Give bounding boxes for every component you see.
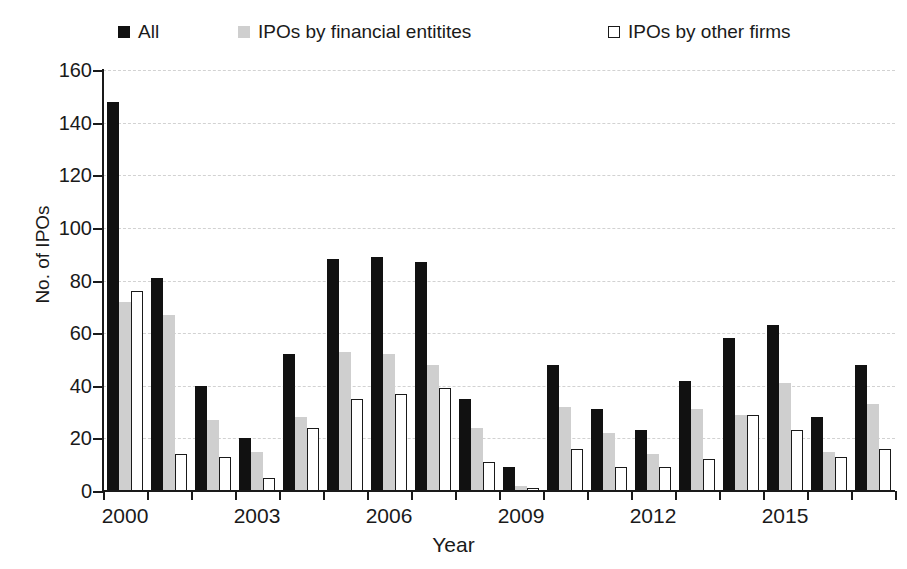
plot-area xyxy=(103,70,895,491)
bar-financial-entities xyxy=(867,404,879,491)
bar-all xyxy=(327,259,339,491)
y-tick-mark xyxy=(93,123,103,125)
bar-group xyxy=(235,70,279,491)
bar-all xyxy=(415,262,427,491)
bar-all xyxy=(547,365,559,491)
x-tick-mark xyxy=(367,491,369,500)
x-tick-mark xyxy=(631,491,633,500)
x-tick-mark xyxy=(323,491,325,500)
x-tick-label: 2003 xyxy=(217,505,297,526)
x-tick-mark xyxy=(411,491,413,500)
y-axis-title: No. of IPOs xyxy=(33,175,52,335)
y-tick-mark xyxy=(93,175,103,177)
bar-group xyxy=(675,70,719,491)
bar-group xyxy=(191,70,235,491)
legend-label-other-firms: IPOs by other firms xyxy=(628,22,791,41)
bar-all xyxy=(151,278,163,491)
bar-group xyxy=(455,70,499,491)
x-tick-mark xyxy=(455,491,457,500)
bar-financial-entities xyxy=(471,428,483,491)
bar-all xyxy=(503,467,515,491)
bar-financial-entities xyxy=(207,420,219,491)
x-tick-mark xyxy=(279,491,281,500)
bar-all xyxy=(239,438,251,491)
y-tick-label: 160 xyxy=(32,60,92,80)
bar-all xyxy=(283,354,295,491)
x-tick-label: 2009 xyxy=(481,505,561,526)
bar-other-firms xyxy=(747,415,759,491)
bar-other-firms xyxy=(659,467,671,491)
bar-group xyxy=(807,70,851,491)
bar-group xyxy=(103,70,147,491)
x-tick-label: 2015 xyxy=(745,505,825,526)
bar-other-firms xyxy=(483,462,495,491)
x-tick-label: 2006 xyxy=(349,505,429,526)
bar-financial-entities xyxy=(779,383,791,491)
bar-other-firms xyxy=(351,399,363,491)
bar-other-firms xyxy=(131,291,143,491)
bar-all xyxy=(811,417,823,491)
filled-black-square-icon xyxy=(118,26,130,38)
bar-other-firms xyxy=(395,394,407,491)
bar-group xyxy=(763,70,807,491)
bar-all xyxy=(371,257,383,491)
bar-other-firms xyxy=(175,454,187,491)
bar-group xyxy=(719,70,763,491)
outlined-white-square-icon xyxy=(608,26,620,38)
bar-financial-entities xyxy=(647,454,659,491)
bar-financial-entities xyxy=(383,354,395,491)
y-tick-label: 140 xyxy=(32,113,92,133)
bar-financial-entities xyxy=(119,302,131,491)
bar-group xyxy=(631,70,675,491)
bar-financial-entities xyxy=(339,352,351,491)
x-tick-mark xyxy=(675,491,677,500)
x-tick-mark xyxy=(235,491,237,500)
x-tick-label: 2012 xyxy=(613,505,693,526)
x-tick-mark xyxy=(543,491,545,500)
bar-all xyxy=(679,381,691,492)
legend-item-all: All xyxy=(118,22,159,41)
bar-other-firms xyxy=(219,457,231,491)
bar-group xyxy=(411,70,455,491)
bar-other-firms xyxy=(703,459,715,491)
bar-other-firms xyxy=(835,457,847,491)
x-tick-mark xyxy=(895,491,897,500)
x-axis-title: Year xyxy=(0,534,907,555)
y-tick-label: 40 xyxy=(32,376,92,396)
y-tick-mark xyxy=(93,228,103,230)
bar-other-firms xyxy=(879,449,891,491)
chart-legend: All IPOs by financial entitites IPOs by … xyxy=(0,22,907,52)
bar-all xyxy=(855,365,867,491)
bar-other-firms xyxy=(791,430,803,491)
x-tick-mark xyxy=(587,491,589,500)
y-tick-mark xyxy=(93,281,103,283)
bar-all xyxy=(767,325,779,491)
filled-gray-square-icon xyxy=(238,26,250,38)
bar-financial-entities xyxy=(823,452,835,491)
x-tick-mark xyxy=(103,491,105,500)
bar-financial-entities xyxy=(295,417,307,491)
bar-other-firms xyxy=(615,467,627,491)
bars-layer xyxy=(103,70,895,491)
legend-label-financial-entities: IPOs by financial entitites xyxy=(258,22,471,41)
bar-group xyxy=(323,70,367,491)
y-tick-mark xyxy=(93,386,103,388)
bar-all xyxy=(591,409,603,491)
y-tick-mark xyxy=(93,438,103,440)
ipo-bar-chart: All IPOs by financial entitites IPOs by … xyxy=(0,0,907,569)
bar-group xyxy=(147,70,191,491)
y-tick-mark xyxy=(93,491,103,493)
bar-financial-entities xyxy=(603,433,615,491)
bar-all xyxy=(459,399,471,491)
bar-other-firms xyxy=(307,428,319,491)
bar-financial-entities xyxy=(735,415,747,491)
bar-group xyxy=(543,70,587,491)
x-tick-mark xyxy=(763,491,765,500)
bar-all xyxy=(107,102,119,491)
bar-all xyxy=(635,430,647,491)
legend-item-financial-entities: IPOs by financial entitites xyxy=(238,22,471,41)
legend-item-other-firms: IPOs by other firms xyxy=(608,22,791,41)
bar-group xyxy=(367,70,411,491)
x-tick-mark xyxy=(719,491,721,500)
bar-financial-entities xyxy=(559,407,571,491)
